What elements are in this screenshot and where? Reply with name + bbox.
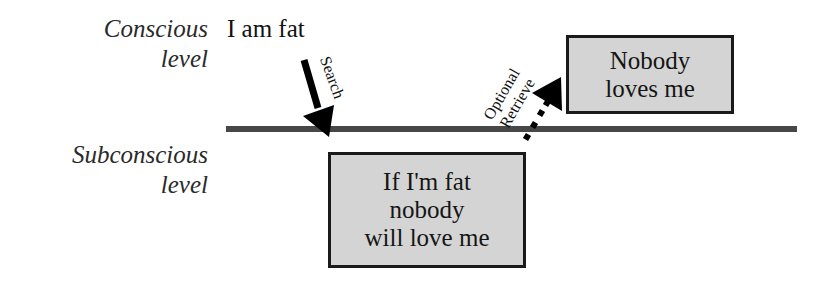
conclusion-box: Nobody loves me bbox=[566, 35, 734, 114]
conclusion-line-1: Nobody bbox=[610, 47, 691, 75]
belief-line-2: nobody bbox=[390, 196, 465, 224]
conclusion-line-2: loves me bbox=[605, 75, 695, 103]
belief-line-3: will love me bbox=[365, 224, 490, 252]
belief-box: If I'm fat nobody will love me bbox=[328, 152, 526, 268]
belief-line-1: If I'm fat bbox=[383, 168, 471, 196]
